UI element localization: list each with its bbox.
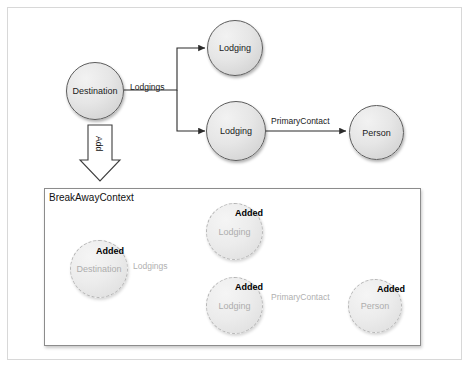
node-person-label: Person xyxy=(362,128,391,138)
node-lodging-top-label: Lodging xyxy=(219,43,251,53)
diagram-canvas: Destination Lodging Lodging Person Lodgi… xyxy=(0,0,472,370)
edge-label-primary-contact: PrimaryContact xyxy=(271,116,330,126)
context-node-lodging-bottom-label: Lodging xyxy=(218,301,250,311)
node-lodging-bottom[interactable]: Lodging xyxy=(206,101,266,161)
node-destination-label: Destination xyxy=(72,86,117,96)
context-node-person-badge: Added xyxy=(377,284,405,294)
edge-label-lodgings: Lodgings xyxy=(130,82,165,92)
add-arrow-label: Add xyxy=(94,136,104,151)
context-node-destination-badge: Added xyxy=(96,246,124,256)
node-lodging-top[interactable]: Lodging xyxy=(207,20,263,76)
context-edge-label-lodgings: Lodgings xyxy=(133,261,168,271)
context-node-lodging-top-label: Lodging xyxy=(218,227,250,237)
node-person[interactable]: Person xyxy=(349,105,404,160)
context-node-lodging-bottom-badge: Added xyxy=(235,282,263,292)
node-lodging-bottom-label: Lodging xyxy=(220,126,252,136)
context-edge-label-primary-contact: PrimaryContact xyxy=(271,292,330,302)
context-node-lodging-top-badge: Added xyxy=(235,208,263,218)
context-node-person-label: Person xyxy=(361,301,390,311)
node-destination[interactable]: Destination xyxy=(66,62,124,120)
breakaway-context-title: BreakAwayContext xyxy=(49,192,134,203)
context-node-destination-label: Destination xyxy=(76,264,121,274)
add-transition-arrow xyxy=(80,125,120,181)
edge-lodgings-bottom xyxy=(177,90,205,131)
